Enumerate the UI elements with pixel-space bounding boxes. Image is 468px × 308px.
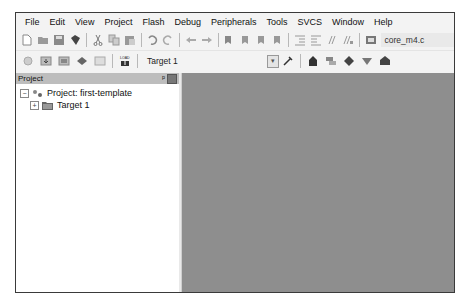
tree-item-target[interactable]: + Target 1 bbox=[16, 99, 179, 111]
download-load-icon[interactable]: LOAD bbox=[118, 54, 132, 68]
menu-project[interactable]: Project bbox=[99, 14, 137, 30]
toolbar-separator bbox=[179, 33, 180, 47]
tree-root-project[interactable]: − Project: first-template bbox=[16, 87, 179, 99]
rebuild-icon[interactable] bbox=[57, 54, 71, 68]
manage-rte-icon[interactable] bbox=[342, 54, 356, 68]
toolbar-separator bbox=[288, 33, 289, 47]
panel-title: Project bbox=[18, 74, 43, 83]
project-panel-header: Project ᵖ bbox=[16, 73, 179, 84]
navigate-back-icon[interactable] bbox=[185, 33, 197, 47]
menu-bar: File Edit View Project Flash Debug Perip… bbox=[16, 13, 454, 31]
toolbar-separator bbox=[218, 33, 219, 47]
open-file-icon[interactable] bbox=[37, 33, 49, 47]
select-packs-icon[interactable] bbox=[324, 54, 338, 68]
toolbar-separator bbox=[137, 54, 138, 68]
toolbar-separator bbox=[359, 33, 360, 47]
tree-root-label: Project: first-template bbox=[47, 88, 132, 98]
pack-update-icon[interactable] bbox=[378, 54, 392, 68]
toolbar-separator bbox=[112, 54, 113, 68]
menu-peripherals[interactable]: Peripherals bbox=[206, 14, 262, 30]
svg-text:LOAD: LOAD bbox=[120, 56, 130, 60]
menu-file[interactable]: File bbox=[20, 14, 45, 30]
tree-item-label: Target 1 bbox=[57, 100, 90, 110]
toolbar-separator bbox=[86, 33, 87, 47]
close-icon[interactable] bbox=[167, 74, 177, 84]
ide-window: File Edit View Project Flash Debug Perip… bbox=[15, 12, 455, 293]
project-icon bbox=[32, 89, 43, 98]
bookmark-clear-icon[interactable] bbox=[271, 33, 283, 47]
target-select[interactable]: Target 1 bbox=[143, 54, 265, 68]
toolbar-separator bbox=[141, 33, 142, 47]
menu-svcs[interactable]: SVCS bbox=[293, 14, 328, 30]
bookmark-insert-icon[interactable] bbox=[223, 33, 235, 47]
save-icon[interactable] bbox=[53, 33, 65, 47]
file-toolbar: core_m4.c bbox=[16, 30, 454, 51]
chevron-down-icon[interactable]: ▾ bbox=[267, 55, 279, 68]
unindent-icon[interactable] bbox=[310, 33, 322, 47]
pack-installer-icon[interactable] bbox=[360, 54, 374, 68]
comment-icon[interactable] bbox=[326, 33, 338, 47]
menu-view[interactable]: View bbox=[70, 14, 99, 30]
translate-icon[interactable] bbox=[21, 54, 35, 68]
redo-icon[interactable] bbox=[162, 33, 174, 47]
menu-flash[interactable]: Flash bbox=[137, 14, 169, 30]
collapse-icon[interactable]: − bbox=[20, 89, 29, 98]
copy-icon[interactable] bbox=[108, 33, 120, 47]
paste-icon[interactable] bbox=[124, 33, 136, 47]
manage-project-items-icon[interactable] bbox=[306, 54, 320, 68]
bookmark-next-icon[interactable] bbox=[255, 33, 267, 47]
batch-build-icon[interactable] bbox=[75, 54, 89, 68]
editor-area[interactable] bbox=[182, 73, 454, 292]
build-toolbar: LOAD Target 1 ▾ bbox=[16, 51, 454, 71]
bookmark-prev-icon[interactable] bbox=[239, 33, 251, 47]
target-options-icon[interactable] bbox=[281, 54, 295, 68]
folder-icon bbox=[42, 101, 53, 110]
navigate-forward-icon[interactable] bbox=[201, 33, 213, 47]
save-all-icon[interactable] bbox=[69, 33, 81, 47]
uncomment-icon[interactable] bbox=[342, 33, 354, 47]
project-panel: Project ᵖ − Project: first-template + Ta… bbox=[16, 73, 180, 292]
expand-icon[interactable]: + bbox=[30, 101, 39, 110]
cut-icon[interactable] bbox=[92, 33, 104, 47]
find-combo[interactable]: core_m4.c bbox=[381, 33, 454, 47]
project-tree: − Project: first-template + Target 1 bbox=[16, 84, 179, 111]
menu-edit[interactable]: Edit bbox=[45, 14, 71, 30]
stop-build-icon[interactable] bbox=[93, 54, 107, 68]
build-icon[interactable] bbox=[39, 54, 53, 68]
toolbar-separator bbox=[300, 54, 301, 68]
indent-icon[interactable] bbox=[294, 33, 306, 47]
menu-debug[interactable]: Debug bbox=[169, 14, 206, 30]
menu-window[interactable]: Window bbox=[327, 14, 369, 30]
menu-help[interactable]: Help bbox=[369, 14, 398, 30]
pin-icon[interactable]: ᵖ bbox=[162, 74, 165, 83]
menu-tools[interactable]: Tools bbox=[261, 14, 292, 30]
find-in-files-icon[interactable] bbox=[365, 33, 377, 47]
new-file-icon[interactable] bbox=[21, 33, 33, 47]
undo-icon[interactable] bbox=[146, 33, 158, 47]
